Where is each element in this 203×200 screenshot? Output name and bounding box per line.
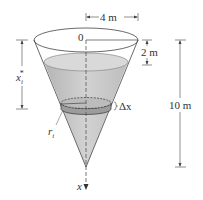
label-x-axis: x (77, 181, 82, 192)
delta-x-bracket (114, 102, 118, 110)
dim-10m-arrow-bottom (179, 163, 182, 167)
label-depth-xi-star: xi* (16, 70, 24, 86)
dim-xi-arrow-bottom (21, 105, 24, 109)
slab-radius-leader (56, 110, 63, 125)
dim-xi-arrow-top (21, 40, 24, 44)
label-slab-thickness: Δx (119, 101, 132, 112)
dim-4m-arrow-right (134, 16, 138, 19)
label-total-height: 10 m (169, 100, 191, 111)
dim-4m-arrow-left (86, 16, 90, 19)
dim-10m-arrow-top (179, 40, 182, 44)
x-axis-arrowhead (84, 184, 89, 190)
dim-2m-arrow-top (146, 40, 149, 44)
label-top-radius: 4 m (100, 12, 117, 23)
label-empty-depth: 2 m (141, 47, 158, 58)
dim-2m-arrow-bottom (146, 61, 149, 65)
label-slab-radius: ri (48, 126, 54, 140)
label-origin: 0 (78, 32, 84, 43)
